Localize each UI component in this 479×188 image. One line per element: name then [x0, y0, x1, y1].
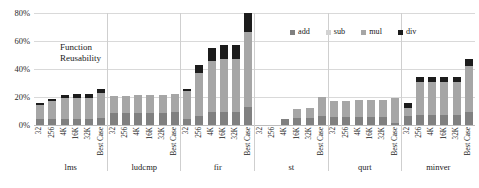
- x-tick-minver-5: Best Case: [465, 127, 473, 160]
- x-tick-qurt-0: 32: [330, 127, 338, 160]
- bar-minver-16k[interactable]: [440, 13, 448, 125]
- x-tick-label: 32: [183, 127, 191, 134]
- x-tick-ludcmp-5: Best Case: [171, 127, 179, 160]
- bar-segment-add: [306, 118, 314, 125]
- x-tick-label: 4K: [134, 127, 142, 136]
- bar-fir-16k[interactable]: [220, 13, 228, 125]
- x-tick-label: Best Case: [392, 127, 400, 156]
- bar-lms-16k[interactable]: [73, 13, 81, 125]
- bar-segment-mul: [73, 98, 81, 119]
- bar-ludcmp-4k[interactable]: [134, 13, 142, 125]
- bar-segment-mul: [330, 101, 338, 117]
- bar-segment-mul: [195, 73, 203, 116]
- x-tick-st-1: 256: [269, 127, 277, 160]
- bar-ludcmp-best-case[interactable]: [171, 13, 179, 125]
- bar-segment-add: [244, 107, 252, 125]
- bar-ludcmp-32[interactable]: [110, 13, 118, 125]
- x-tick-group-lms: 322564K16K32KBest Case: [34, 127, 108, 160]
- bar-segment-add: [97, 118, 105, 125]
- x-tick-label: 4K: [355, 127, 363, 136]
- x-tick-label: Best Case: [318, 127, 326, 156]
- bar-minver-4k[interactable]: [428, 13, 436, 125]
- y-tick-label-60: 60%: [0, 37, 30, 45]
- bar-segment-add: [465, 112, 473, 125]
- bar-fir-256[interactable]: [195, 13, 203, 125]
- legend-label-div: div: [406, 28, 416, 36]
- bar-segment-mul: [208, 61, 216, 111]
- bar-segment-div: [465, 59, 473, 66]
- x-axis-labels: 322564K16K32KBest Case322564K16K32KBest …: [34, 127, 475, 160]
- bar-lms-256[interactable]: [48, 13, 56, 125]
- x-tick-fir-3: 16K: [220, 127, 228, 160]
- x-tick-group-st: 322564K16K32KBest Case: [255, 127, 329, 160]
- bar-fir-32[interactable]: [183, 13, 191, 125]
- bar-st-256[interactable]: [269, 13, 277, 125]
- bar-ludcmp-16k[interactable]: [146, 13, 154, 125]
- legend: add sub mul div: [290, 28, 416, 36]
- bar-segment-add: [293, 118, 301, 125]
- bar-segment-mul: [416, 82, 424, 115]
- bar-fir-best-case[interactable]: [244, 13, 252, 125]
- bar-segment-mul: [306, 108, 314, 119]
- x-tick-label: 16K: [294, 127, 302, 139]
- bar-lms-32[interactable]: [36, 13, 44, 125]
- bar-segment-mul: [122, 96, 130, 113]
- x-tick-label: 32K: [306, 127, 314, 139]
- annotation-line-1: Function: [60, 42, 140, 53]
- y-tick-label-20: 20%: [0, 93, 30, 101]
- x-tick-label: 32: [404, 127, 412, 134]
- x-tick-label: 4K: [281, 127, 289, 136]
- bar-group-fir: [181, 13, 255, 125]
- x-tick-label: 4K: [61, 127, 69, 136]
- bar-segment-mul: [318, 97, 326, 116]
- bar-segment-add: [48, 119, 56, 125]
- bar-group-lms: [34, 13, 108, 125]
- bar-segment-div: [195, 65, 203, 73]
- bar-fir-4k[interactable]: [208, 13, 216, 125]
- bar-minver-256[interactable]: [416, 13, 424, 125]
- x-tick-minver-3: 16K: [440, 127, 448, 160]
- x-tick-fir-0: 32: [183, 127, 191, 160]
- y-tick-label-0: 0%: [0, 121, 30, 129]
- bar-segment-mul: [85, 98, 93, 119]
- legend-swatch-add-icon: [290, 30, 295, 35]
- x-tick-qurt-2: 4K: [355, 127, 363, 160]
- x-tick-group-qurt: 322564K16K32KBest Case: [328, 127, 402, 160]
- bar-lms-4k[interactable]: [61, 13, 69, 125]
- x-tick-ludcmp-1: 256: [122, 127, 130, 160]
- x-tick-ludcmp-3: 16K: [146, 127, 154, 160]
- x-tick-st-2: 4K: [281, 127, 289, 160]
- group-name-qurt: qurt: [328, 162, 402, 176]
- bar-fir-32k[interactable]: [232, 13, 240, 125]
- bar-segment-mul: [367, 100, 375, 118]
- bar-segment-add: [85, 119, 93, 125]
- legend-item-mul: mul: [361, 28, 382, 36]
- bar-segment-add: [391, 123, 399, 125]
- bar-segment-add: [355, 117, 363, 125]
- bar-minver-best-case[interactable]: [465, 13, 473, 125]
- bar-segment-mul: [61, 98, 69, 118]
- bar-group-ludcmp: [108, 13, 182, 125]
- bar-minver-32k[interactable]: [453, 13, 461, 125]
- x-tick-label: 256: [196, 127, 204, 138]
- bar-lms-best-case[interactable]: [97, 13, 105, 125]
- x-tick-minver-1: 256: [416, 127, 424, 160]
- bar-ludcmp-256[interactable]: [122, 13, 130, 125]
- bar-segment-mul: [171, 94, 179, 113]
- x-tick-label: Best Case: [171, 127, 179, 156]
- stacked-bar-chart: 80% 60% 40% 20% 0% 322564K16K32KBest Cas…: [0, 0, 479, 188]
- bar-segment-mul: [342, 101, 350, 117]
- bar-st-32[interactable]: [257, 13, 265, 125]
- bar-segment-add: [232, 112, 240, 125]
- bar-segment-add: [146, 113, 154, 125]
- x-tick-st-3: 16K: [293, 127, 301, 160]
- x-tick-fir-5: Best Case: [244, 127, 252, 160]
- bar-segment-add: [183, 119, 191, 125]
- x-tick-label: Best Case: [245, 127, 253, 156]
- bar-st-4k[interactable]: [281, 13, 289, 125]
- bar-lms-32k[interactable]: [85, 13, 93, 125]
- x-tick-label: 32: [36, 127, 44, 134]
- bar-ludcmp-32k[interactable]: [159, 13, 167, 125]
- x-tick-lms-5: Best Case: [97, 127, 105, 160]
- x-tick-fir-2: 4K: [208, 127, 216, 160]
